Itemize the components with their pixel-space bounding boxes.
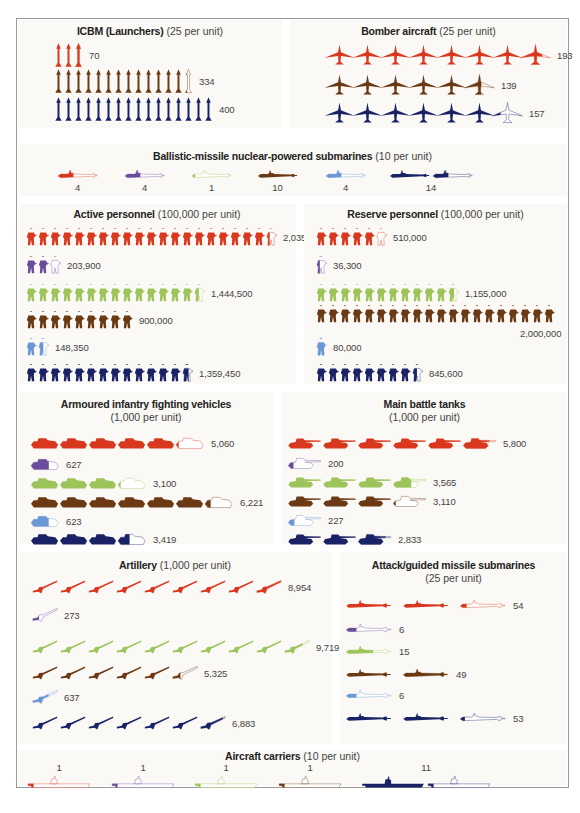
value-label: 900,000 xyxy=(139,315,173,326)
value-label: 5,325 xyxy=(204,668,227,679)
value-label: 627 xyxy=(66,459,82,470)
pictogram-row: 15 xyxy=(344,642,409,660)
soldier-icon xyxy=(376,284,387,302)
pictogram-row: 2,833 xyxy=(286,530,421,548)
soldier-icon xyxy=(544,305,555,323)
pictogram-row: 203,900 xyxy=(26,256,101,274)
soldier-icon xyxy=(388,364,399,382)
soldier-icon xyxy=(424,284,435,302)
aircraft-carrier-icon xyxy=(426,775,492,789)
value-label: 510,000 xyxy=(393,232,427,243)
value-label: 80,000 xyxy=(333,342,361,353)
soldier-icon xyxy=(230,228,241,246)
panel-aircraft-carriers: Aircraft carriers (10 per unit) 1 1 1 1 … xyxy=(18,750,567,786)
pictogram-row: 3,110 xyxy=(286,492,456,510)
missile-icon xyxy=(164,68,173,94)
artillery-icon xyxy=(144,716,170,730)
soldier-icon xyxy=(412,305,423,323)
soldier-icon xyxy=(158,228,169,246)
pictogram-row: 400 xyxy=(54,100,235,118)
pictogram-row xyxy=(316,305,555,323)
artillery-icon xyxy=(88,640,114,654)
panel-title: Attack/guided missile submarines(25 per … xyxy=(340,559,567,585)
bomber-icon xyxy=(436,44,467,66)
tank-icon xyxy=(321,437,357,449)
soldier-icon xyxy=(146,284,157,302)
pictogram-row: 49 xyxy=(344,665,466,683)
pictogram-row: 9,719 xyxy=(32,638,339,656)
tank-icon xyxy=(286,437,322,449)
soldier-icon xyxy=(376,305,387,323)
tank-icon xyxy=(356,495,392,507)
ssbn-item: 10 xyxy=(256,170,299,193)
missile-icon xyxy=(134,68,143,94)
artillery-icon xyxy=(228,580,254,594)
value-label: 3,419 xyxy=(153,534,176,545)
ifv-icon xyxy=(30,532,60,546)
panel-title: Reserve personnel (100,000 per unit) xyxy=(304,208,567,221)
ifv-icon xyxy=(204,495,234,509)
pictogram-row: 1,359,450 xyxy=(26,364,240,382)
bomber-icon xyxy=(324,44,355,66)
missile-icon xyxy=(74,68,83,94)
soldier-icon xyxy=(412,284,423,302)
value-label: 1,359,450 xyxy=(199,368,240,379)
artillery-icon xyxy=(32,580,58,594)
soldier-icon xyxy=(472,305,483,323)
artillery-icon xyxy=(200,716,226,730)
ifv-icon xyxy=(117,532,147,546)
value-label: 6 xyxy=(399,690,404,701)
artillery-icon xyxy=(172,716,198,730)
bomber-icon xyxy=(380,74,411,96)
soldier-icon xyxy=(146,364,157,382)
ifv-icon xyxy=(175,495,205,509)
soldier-icon xyxy=(74,364,85,382)
missile-icon xyxy=(54,96,63,122)
soldier-icon xyxy=(364,228,375,246)
value-label: 3,110 xyxy=(433,496,456,507)
soldier-icon xyxy=(170,364,181,382)
soldier-icon xyxy=(388,305,399,323)
value-label: 157 xyxy=(529,108,545,119)
panel-ssbn: Ballistic-missile nuclear-powered submar… xyxy=(18,144,567,196)
panel-title: ICBM (Launchers) (25 per unit) xyxy=(18,25,282,38)
artillery-icon xyxy=(172,580,198,594)
soldier-icon xyxy=(26,338,37,356)
pictogram-row: 5,800 xyxy=(286,434,526,452)
soldier-icon xyxy=(448,284,459,302)
missile-icon xyxy=(64,68,73,94)
missile-icon xyxy=(154,68,163,94)
soldier-icon xyxy=(38,338,49,356)
pictogram-row: 3,565 xyxy=(286,473,456,491)
pictogram-row: 157 xyxy=(324,104,545,122)
soldier-icon xyxy=(508,305,519,323)
pictogram-row: 1,155,000 xyxy=(316,284,506,302)
pictogram-row: 3,419 xyxy=(30,530,176,548)
ifv-icon xyxy=(117,495,147,509)
missile-icon xyxy=(114,68,123,94)
soldier-icon xyxy=(134,284,145,302)
soldier-icon xyxy=(86,228,97,246)
soldier-icon xyxy=(170,284,181,302)
ifv-icon xyxy=(146,495,176,509)
soldier-icon xyxy=(122,284,133,302)
artillery-icon xyxy=(144,640,170,654)
artillery-icon xyxy=(172,640,198,654)
aircraft-carrier-icon xyxy=(360,775,426,789)
attack-submarine-icon xyxy=(458,600,507,610)
missile-icon xyxy=(124,68,133,94)
pictogram-row: 80,000 xyxy=(316,338,361,356)
attack-submarine-icon xyxy=(344,646,393,656)
artillery-icon xyxy=(60,580,86,594)
aircraft-carrier-icon xyxy=(26,775,92,789)
bomber-icon xyxy=(408,102,439,124)
pictogram-row: 148,350 xyxy=(26,338,89,356)
pictogram-row: 510,000 xyxy=(316,228,427,246)
value-label: 4 xyxy=(56,182,99,193)
value-label: 4 xyxy=(123,182,166,193)
panel-reserve-personnel: Reserve personnel (100,000 per unit) 510… xyxy=(304,204,567,384)
soldier-icon xyxy=(376,228,387,246)
bomber-icon xyxy=(380,44,411,66)
pictogram-row: 1,444,500 xyxy=(26,284,252,302)
soldier-icon xyxy=(86,284,97,302)
